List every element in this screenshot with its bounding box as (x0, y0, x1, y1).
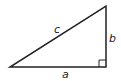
hypotenuse-label: c (54, 23, 60, 36)
right-triangle-diagram: c b a (0, 0, 121, 81)
vertical-leg-label: b (109, 32, 116, 45)
triangle-outline (10, 6, 106, 67)
horizontal-leg-label: a (62, 68, 69, 81)
right-angle-marker (99, 60, 106, 67)
